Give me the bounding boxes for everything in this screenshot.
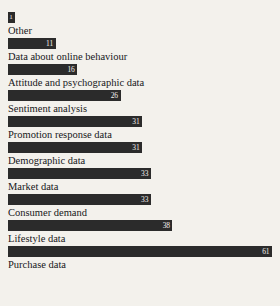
bar-category-label: Attitude and psychographic data: [8, 75, 272, 90]
bar[interactable]: 61: [8, 246, 272, 257]
bar-category-label: Promotion response data: [8, 127, 272, 142]
bar-track: 11: [8, 38, 272, 49]
bar-track: 31: [8, 116, 272, 127]
bar-track: 33: [8, 168, 272, 179]
bar-track: 1: [8, 12, 272, 23]
bar-value-label: 11: [46, 38, 56, 49]
bar[interactable]: 1: [8, 12, 15, 23]
bar[interactable]: 33: [8, 194, 151, 205]
bar-value-label: 38: [163, 220, 173, 231]
chart-row: 33 Market data: [8, 168, 272, 194]
bar-track: 16: [8, 64, 272, 75]
bar[interactable]: 38: [8, 220, 172, 231]
bar-track: 61: [8, 246, 272, 257]
bar-value-label: 33: [141, 168, 151, 179]
chart-row: 11 Data about online behaviour: [8, 38, 272, 64]
bar-value-label: 31: [132, 142, 142, 153]
chart-row: 31 Demographic data: [8, 142, 272, 168]
chart-row: 16 Attitude and psychographic data: [8, 64, 272, 90]
bar-track: 33: [8, 194, 272, 205]
bar-track: 26: [8, 90, 272, 101]
bar-value-label: 1: [9, 12, 13, 23]
bar-category-label: Data about online behaviour: [8, 49, 272, 64]
bar-track: 38: [8, 220, 272, 231]
chart-row: 31 Promotion response data: [8, 116, 272, 142]
bar-category-label: Other: [8, 23, 272, 38]
bar[interactable]: 31: [8, 142, 142, 153]
bar-chart: 1 Other 11 Data about online behaviour 1…: [0, 0, 280, 306]
chart-row: 38 Lifestyle data: [8, 220, 272, 246]
bar-chart-rows: 1 Other 11 Data about online behaviour 1…: [8, 12, 272, 272]
bar-category-label: Market data: [8, 179, 272, 194]
bar[interactable]: 11: [8, 38, 56, 49]
chart-row: 1 Other: [8, 12, 272, 38]
bar[interactable]: 31: [8, 116, 142, 127]
chart-row: 33 Consumer demand: [8, 194, 272, 220]
bar-value-label: 31: [132, 116, 142, 127]
bar-value-label: 16: [67, 64, 77, 75]
bar-track: 31: [8, 142, 272, 153]
bar-value-label: 61: [262, 246, 272, 257]
chart-row: 26 Sentiment analysis: [8, 90, 272, 116]
bar[interactable]: 16: [8, 64, 77, 75]
bar[interactable]: 26: [8, 90, 121, 101]
bar-value-label: 26: [111, 90, 121, 101]
bar-value-label: 33: [141, 194, 151, 205]
chart-row: 61 Purchase data: [8, 246, 272, 272]
bar-category-label: Lifestyle data: [8, 231, 272, 246]
bar[interactable]: 33: [8, 168, 151, 179]
bar-category-label: Demographic data: [8, 153, 272, 168]
bar-category-label: Purchase data: [8, 257, 272, 272]
bar-category-label: Sentiment analysis: [8, 101, 272, 116]
bar-category-label: Consumer demand: [8, 205, 272, 220]
